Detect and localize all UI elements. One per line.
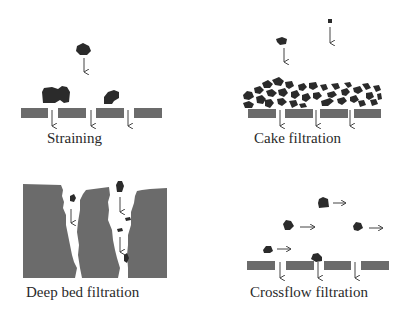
particle [311, 253, 322, 262]
deepbed-panel [23, 181, 167, 278]
filter-medium-segment [96, 108, 124, 118]
particle [328, 19, 332, 23]
filter-medium-segment [58, 108, 86, 118]
particle [76, 43, 91, 55]
particle [42, 86, 70, 103]
filter-medium-segment [361, 261, 389, 270]
filter-medium-segment [134, 108, 162, 118]
crossflow-panel [247, 197, 389, 278]
filter-medium-segment [286, 261, 314, 270]
particle [104, 90, 119, 104]
filter-bed-block [23, 184, 77, 278]
label-cake-filtration: Cake filtration [254, 130, 341, 147]
filtration-diagram [0, 0, 409, 314]
filter-bed-block [77, 187, 120, 278]
label-crossflow-filtration: Crossflow filtration [250, 284, 368, 301]
particle [283, 220, 294, 230]
filter-bed-block [127, 188, 167, 278]
filter-medium-segment [320, 109, 348, 118]
filter-medium-segment [324, 261, 351, 270]
filter-medium-segment [285, 109, 313, 118]
particle [318, 197, 329, 208]
particle [353, 222, 363, 231]
particle [276, 37, 287, 45]
particle [125, 217, 131, 221]
label-deep-bed-filtration: Deep bed filtration [26, 284, 139, 301]
filter-medium-segment [247, 261, 275, 270]
label-straining: Straining [47, 130, 102, 147]
filter-medium-segment [21, 108, 48, 118]
filter-cake [243, 77, 382, 108]
straining-panel [21, 43, 162, 126]
filter-medium-segment [248, 109, 276, 118]
particle [116, 181, 124, 192]
filter-medium-segment [354, 109, 381, 118]
cake-panel [243, 19, 382, 126]
particle [263, 246, 273, 253]
particle [70, 194, 76, 202]
particle [117, 228, 123, 232]
